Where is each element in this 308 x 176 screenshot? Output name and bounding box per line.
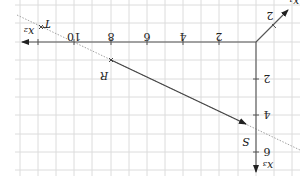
diagram-canvas: 2 4 6 8 10 2 4 6 2 x₂ x₃ x₁ T R S xyxy=(0,0,308,176)
point-r-label: R xyxy=(100,69,109,82)
x2-tick-10: 10 xyxy=(67,30,81,43)
x3-tick-labels: 2 4 6 xyxy=(264,72,271,158)
x3-tick-6: 6 xyxy=(264,145,271,158)
vector-r-to-s xyxy=(111,60,246,124)
x2-axis-label: x₂ xyxy=(24,25,35,38)
x3-tick-4: 4 xyxy=(264,108,271,121)
x3-tick-2: 2 xyxy=(264,72,271,85)
x2-tick-4: 4 xyxy=(180,30,187,43)
x1-axis-label: x₁ xyxy=(289,0,300,8)
x1-tick-2: 2 xyxy=(267,9,274,22)
x3-axis-label: x₃ xyxy=(263,159,274,172)
grid xyxy=(15,0,300,176)
point-s-label: S xyxy=(242,135,250,148)
x2-tick-2: 2 xyxy=(216,30,223,43)
x2-tick-labels: 2 4 6 8 10 xyxy=(67,30,223,43)
x2-tick-8: 8 xyxy=(108,30,115,43)
x2-tick-6: 6 xyxy=(144,30,151,43)
coordinate-diagram: 2 4 6 8 10 2 4 6 2 x₂ x₃ x₁ T R S xyxy=(0,0,308,176)
